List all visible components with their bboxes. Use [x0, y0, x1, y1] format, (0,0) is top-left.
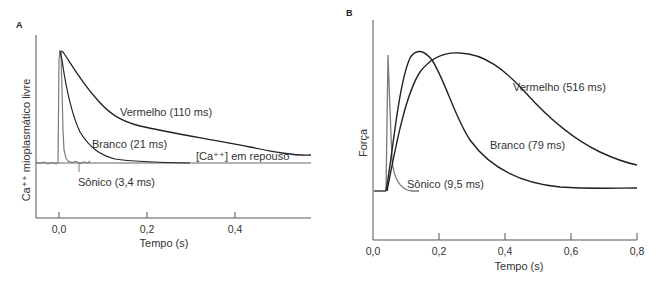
vermelho-force-label: Vermelho (516 ms): [513, 81, 606, 93]
panel-b-tick-label: 0,0: [366, 245, 381, 257]
figure: A 0,0 0,2 0,4 Tempo (s) Ca⁺⁺ mioplasmáti…: [0, 0, 656, 284]
panel-b: B 0,0 0,2 0,4 0,6 0,8 Tempo (s) Força Ve…: [346, 8, 644, 272]
panel-a-tick-label: 0,4: [228, 223, 243, 235]
vermelho-force-trace: [387, 53, 637, 191]
vermelho-label: Vermelho (110 ms): [120, 106, 212, 118]
panel-b-tick-label: 0,6: [564, 245, 579, 257]
sonico-label: Sônico (3,4 ms): [78, 176, 155, 188]
panel-a-label: A: [16, 20, 23, 30]
panel-a-tick-label: 0,2: [140, 223, 155, 235]
sonico-force-label: Sônico (9,5 ms): [407, 178, 484, 190]
panel-a-tick-label: 0,0: [52, 223, 67, 235]
branco-label: Branco (21 ms): [92, 138, 167, 150]
panel-b-x-label: Tempo (s): [495, 260, 544, 272]
panel-a-x-label: Tempo (s): [140, 237, 189, 249]
panel-a-y-label: Ca⁺⁺ mioplasmático livre: [20, 79, 32, 202]
panel-b-tick-label: 0,4: [498, 245, 513, 257]
panel-a: A 0,0 0,2 0,4 Tempo (s) Ca⁺⁺ mioplasmáti…: [16, 20, 311, 249]
resting-label: [Ca⁺⁺] em repouso: [196, 150, 289, 162]
baseline-noise: [36, 162, 58, 164]
branco-force-label: Branco (79 ms): [490, 139, 565, 151]
panel-b-label: B: [346, 8, 353, 18]
panel-b-tick-label: 0,2: [432, 245, 447, 257]
branco-force-trace: [386, 51, 637, 191]
panel-b-y-label: Força: [357, 128, 369, 157]
panel-b-tick-label: 0,8: [630, 245, 645, 257]
